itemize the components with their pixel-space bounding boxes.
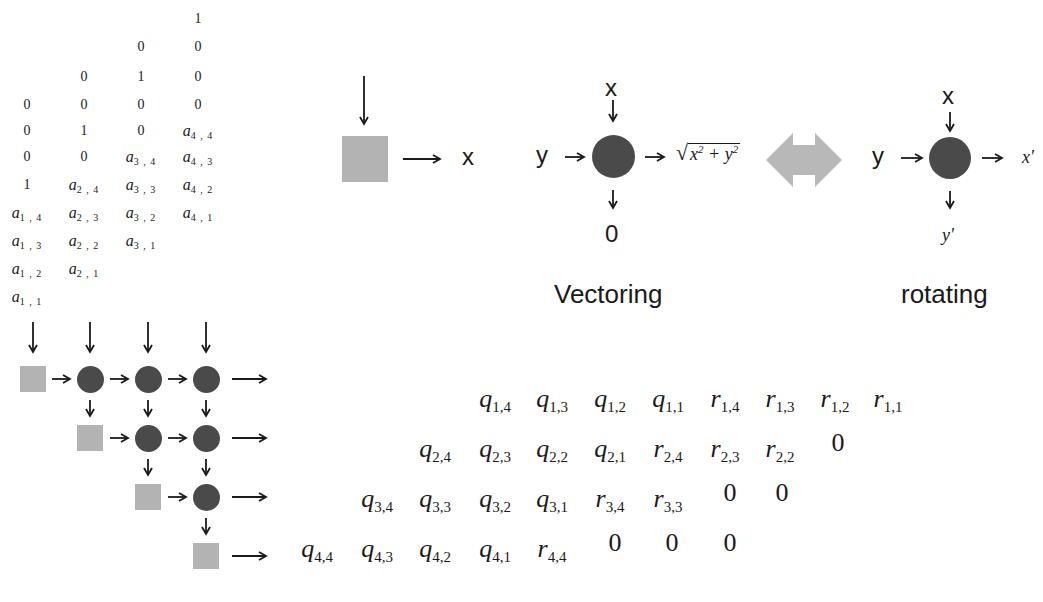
output-matrix-entry: 0 (647, 528, 697, 558)
output-matrix-entry: 0 (813, 428, 863, 458)
rotating-output-y-prime: y' (942, 225, 954, 246)
output-matrix-entry: r1,2 (810, 384, 860, 422)
output-matrix-entry: q4,2 (410, 534, 460, 572)
internal-cell (135, 366, 162, 393)
output-matrix-entry: q1,4 (470, 384, 520, 422)
output-matrix-entry: r1,1 (863, 384, 913, 422)
output-matrix-entry: q2,3 (470, 434, 520, 472)
internal-cell (193, 425, 220, 452)
output-matrix-entry: r3,4 (585, 484, 635, 522)
rotating-input-x: x (942, 82, 954, 110)
rotating-label: rotating (901, 279, 988, 310)
rotating-output-x-prime: x' (1022, 147, 1034, 168)
output-matrix-entry: q3,1 (527, 484, 577, 522)
output-matrix-entry: q1,2 (585, 384, 635, 422)
output-matrix-entry: q4,1 (470, 534, 520, 572)
output-matrix-entry: q1,1 (643, 384, 693, 422)
internal-cell (135, 425, 162, 452)
output-matrix-entry: r1,4 (700, 384, 750, 422)
rotating-input-y: y (872, 142, 884, 170)
internal-cell (193, 366, 220, 393)
output-matrix-entry: r2,3 (700, 434, 750, 472)
boundary-output-label: x (462, 143, 474, 171)
output-matrix-entry: q2,4 (410, 434, 460, 472)
vectoring-output-zero: 0 (605, 220, 618, 248)
output-matrix-entry: q3,3 (410, 484, 460, 522)
output-matrix-entry: q4,4 (292, 534, 342, 572)
output-matrix-entry: r1,3 (755, 384, 805, 422)
output-matrix-entry: r4,4 (527, 534, 577, 572)
output-matrix-entry: q2,1 (585, 434, 635, 472)
output-matrix-entry: q1,3 (527, 384, 577, 422)
boundary-cell (77, 425, 103, 451)
legend-boundary-cell (342, 136, 388, 182)
vectoring-input-y: y (536, 141, 548, 169)
output-matrix-entry: q3,4 (352, 484, 402, 522)
vectoring-label: Vectoring (554, 279, 662, 310)
output-matrix-entry: r2,4 (643, 434, 693, 472)
vectoring-input-x: x (605, 74, 617, 102)
output-matrix-entry: 0 (757, 478, 807, 508)
internal-cell (193, 484, 220, 511)
boundary-cell (135, 484, 161, 510)
output-matrix-entry: q2,2 (527, 434, 577, 472)
output-matrix-entry: r3,3 (643, 484, 693, 522)
output-matrix-entry: 0 (590, 528, 640, 558)
vectoring-output-magnitude: √x2 + y2 (676, 140, 740, 166)
swap-double-arrow-icon (766, 133, 842, 187)
output-matrix-entry: 0 (705, 478, 755, 508)
rotating-cell (929, 137, 971, 179)
output-matrix-entry: 0 (705, 528, 755, 558)
vectoring-cell (592, 135, 635, 178)
output-matrix-entry: q3,2 (470, 484, 520, 522)
boundary-cell (20, 366, 46, 392)
internal-cell (77, 366, 104, 393)
output-matrix-entry: q4,3 (352, 534, 402, 572)
boundary-cell (193, 543, 219, 569)
arrows-layer (0, 0, 1043, 602)
output-matrix-entry: r2,2 (755, 434, 805, 472)
